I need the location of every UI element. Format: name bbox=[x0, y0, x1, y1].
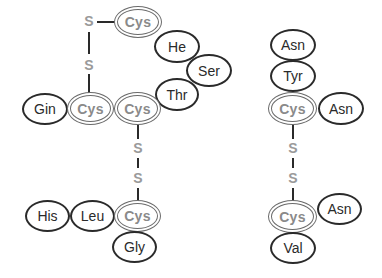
cys-node: Cys bbox=[268, 200, 317, 233]
cys-node: Cys bbox=[114, 200, 161, 232]
val-node: Val bbox=[270, 232, 316, 264]
cys-node: Cys bbox=[67, 92, 114, 125]
bond-line bbox=[88, 74, 90, 94]
leu-node: Leu bbox=[70, 200, 115, 232]
his-node: His bbox=[25, 200, 70, 232]
sulfur-label: S bbox=[82, 57, 96, 73]
sulfur-label: S bbox=[131, 170, 145, 186]
sulfur-label: S bbox=[131, 140, 145, 156]
bond-line bbox=[88, 32, 90, 54]
tyr-node: Tyr bbox=[270, 60, 316, 92]
insulin-disulfide-diagram: S S Cys He Ser Thr Gin Cys Cys S S His L… bbox=[0, 0, 382, 278]
bond-line bbox=[292, 125, 294, 139]
bond-line bbox=[137, 125, 139, 139]
ser-node: Ser bbox=[186, 54, 232, 87]
cys-node: Cys bbox=[114, 92, 161, 125]
sulfur-label: S bbox=[286, 140, 300, 156]
bond-line bbox=[137, 158, 139, 168]
sulfur-label: S bbox=[286, 170, 300, 186]
gln-node: Gin bbox=[22, 93, 68, 125]
gly-node: Gly bbox=[112, 231, 157, 263]
asn-node: Asn bbox=[317, 193, 362, 225]
sulfur-label: S bbox=[82, 13, 96, 29]
bond-line bbox=[292, 158, 294, 168]
bond-line bbox=[97, 21, 115, 23]
cys-node: Cys bbox=[114, 6, 162, 38]
thr-node: Thr bbox=[155, 78, 199, 111]
asn-node: Asn bbox=[270, 29, 316, 61]
asn-node: Asn bbox=[318, 92, 364, 125]
cys-node: Cys bbox=[268, 92, 317, 125]
